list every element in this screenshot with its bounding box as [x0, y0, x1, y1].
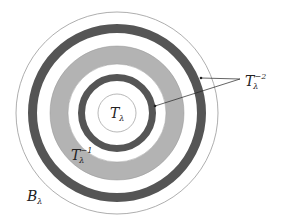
label-t-lambda: Tλ: [110, 105, 124, 123]
pointer-line-outer: [201, 78, 240, 79]
label-t-lambda-inv2: Tλ−2: [245, 72, 266, 91]
pointer-dot-outer: [200, 77, 203, 80]
concentric-rings-diagram: Tλ Tλ−1 Tλ−2 Bλ: [0, 0, 285, 221]
pointer-dot-inner: [154, 105, 157, 108]
label-b-lambda: Bλ: [26, 188, 42, 206]
